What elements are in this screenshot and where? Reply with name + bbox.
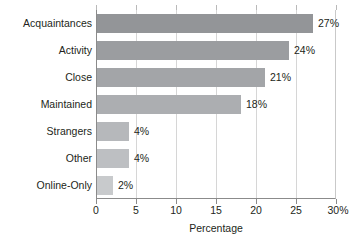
x-axis-title: Percentage — [96, 222, 336, 234]
x-tick-label-20: 20 — [250, 203, 262, 217]
top-tick-25 — [296, 5, 297, 10]
x-tick-label-10: 10 — [170, 203, 182, 217]
bar-acquaintances — [97, 14, 313, 33]
top-tick-10 — [176, 5, 177, 10]
x-tick-label-15: 15 — [210, 203, 222, 217]
top-tick-5 — [136, 5, 137, 10]
category-axis-labels: Acquaintances Activity Close Maintained … — [0, 10, 92, 199]
bar-value-other: 4% — [134, 149, 149, 168]
plot-area: 27% 24% 21% 18% 4% 4% 2% — [96, 10, 336, 199]
bar-chart: Acquaintances Activity Close Maintained … — [0, 0, 362, 251]
category-label-maintained: Maintained — [0, 91, 92, 118]
bar-close — [97, 68, 265, 87]
x-tick-label-25: 25 — [290, 203, 302, 217]
gridline-25 — [296, 10, 297, 198]
bar-value-activity: 24% — [294, 41, 315, 60]
bar-value-online-only: 2% — [118, 176, 133, 195]
bar-strangers — [97, 122, 129, 141]
bar-online-only — [97, 176, 113, 195]
x-tick-label-30: 30% — [327, 203, 348, 217]
category-label-acquaintances: Acquaintances — [0, 10, 92, 37]
x-axis-tick-labels: 0 5 10 15 20 25 30% — [0, 203, 362, 219]
bar-value-acquaintances: 27% — [318, 14, 339, 33]
bar-value-strangers: 4% — [134, 122, 149, 141]
top-tick-30 — [336, 5, 337, 10]
bar-activity — [97, 41, 289, 60]
x-tick-label-0: 0 — [93, 203, 99, 217]
category-label-online-only: Online-Only — [0, 172, 92, 199]
bar-other — [97, 149, 129, 168]
category-label-other: Other — [0, 145, 92, 172]
bar-value-close: 21% — [270, 68, 291, 87]
bar-value-maintained: 18% — [246, 95, 267, 114]
x-tick-label-5: 5 — [133, 203, 139, 217]
top-tick-20 — [256, 5, 257, 10]
top-tick-0 — [96, 5, 97, 10]
category-label-close: Close — [0, 64, 92, 91]
category-label-activity: Activity — [0, 37, 92, 64]
bar-maintained — [97, 95, 241, 114]
top-tick-15 — [216, 5, 217, 10]
category-label-strangers: Strangers — [0, 118, 92, 145]
